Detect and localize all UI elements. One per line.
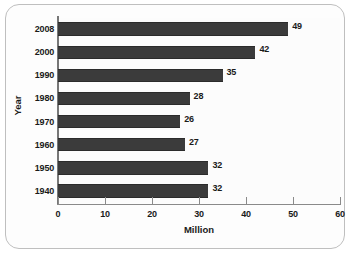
x-axis-tick-label: 30 bbox=[184, 209, 214, 219]
bar-value-label: 35 bbox=[227, 67, 237, 77]
y-axis-tick-label: 1970 bbox=[18, 111, 54, 134]
y-axis-tick-label: 1960 bbox=[18, 134, 54, 157]
x-axis-tick-label: 10 bbox=[90, 209, 120, 219]
y-axis-tick-label: 1950 bbox=[18, 157, 54, 180]
x-axis-tick bbox=[105, 197, 106, 204]
x-axis-tick bbox=[58, 197, 59, 204]
bar-value-label: 32 bbox=[212, 160, 222, 170]
x-axis-tick bbox=[152, 197, 153, 204]
bar-value-label: 32 bbox=[212, 183, 222, 193]
x-axis-tick-label: 0 bbox=[43, 209, 73, 219]
x-axis-tick-label: 50 bbox=[278, 209, 308, 219]
x-axis-tick-label: 20 bbox=[137, 209, 167, 219]
chart-figure: 4942352826273232 20082000199019801970196… bbox=[0, 0, 357, 259]
bar-value-label: 27 bbox=[189, 137, 199, 147]
y-axis-tick-label: 1940 bbox=[18, 180, 54, 203]
x-axis-tick bbox=[246, 197, 247, 204]
x-axis-tick-label: 40 bbox=[231, 209, 261, 219]
x-axis-tick-label: 60 bbox=[325, 209, 355, 219]
y-axis-tick-label: 1990 bbox=[18, 64, 54, 87]
bar bbox=[58, 184, 208, 197]
bar bbox=[58, 115, 180, 128]
bar bbox=[58, 69, 223, 82]
bar bbox=[58, 161, 208, 174]
y-axis-title: Year bbox=[12, 83, 23, 129]
bar-value-label: 49 bbox=[292, 21, 302, 31]
x-axis-title: Million bbox=[58, 224, 340, 235]
bar bbox=[58, 138, 185, 151]
x-axis-tick bbox=[199, 197, 200, 204]
x-axis-tick bbox=[293, 197, 294, 204]
y-axis-line bbox=[57, 16, 59, 205]
bar-value-label: 28 bbox=[194, 91, 204, 101]
y-axis-tick-label: 2000 bbox=[18, 41, 54, 64]
bar bbox=[58, 46, 255, 59]
bar bbox=[58, 22, 288, 35]
x-axis-tick bbox=[340, 197, 341, 204]
y-axis-tick-label: 1980 bbox=[18, 87, 54, 110]
y-axis-tick-label: 2008 bbox=[18, 18, 54, 41]
bar bbox=[58, 92, 190, 105]
bar-value-label: 42 bbox=[259, 44, 269, 54]
x-axis-line bbox=[57, 204, 341, 205]
bar-value-label: 26 bbox=[184, 114, 194, 124]
